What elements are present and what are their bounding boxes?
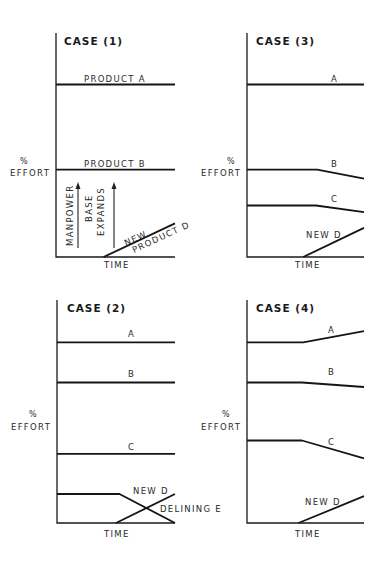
case-4-label-c: C bbox=[328, 437, 335, 447]
case-1-y-label-symbol: % bbox=[20, 157, 29, 166]
panel-case-1: CASE (1) % EFFORT TIME PRODUCT A PRODUCT… bbox=[10, 33, 192, 270]
case-1-label-product-a: PRODUCT A bbox=[84, 74, 146, 84]
case-3-axes bbox=[247, 33, 364, 257]
case-2-x-label: TIME bbox=[103, 529, 130, 539]
effort-diagram: CASE (1) % EFFORT TIME PRODUCT A PRODUCT… bbox=[0, 0, 385, 563]
case-1-base-expands-arrowhead-icon bbox=[112, 182, 117, 189]
case-1-expands-label: EXPANDS bbox=[96, 187, 106, 236]
case-2-label-a: A bbox=[128, 329, 135, 339]
case-1-y-label: EFFORT bbox=[10, 168, 50, 178]
case-4-x-label: TIME bbox=[294, 529, 321, 539]
case-1-manpower-label: MANPOWER bbox=[65, 185, 75, 246]
case-3-label-a: A bbox=[331, 74, 338, 84]
case-4-axes bbox=[247, 300, 364, 523]
case-2-label-c: C bbox=[128, 442, 135, 452]
case-4-series-a bbox=[247, 331, 364, 342]
case-3-series-c bbox=[247, 206, 364, 213]
case-3-label-new-d: NEW D bbox=[306, 230, 342, 240]
case-2-label-b: B bbox=[128, 369, 135, 379]
case-4-label-b: B bbox=[328, 367, 335, 377]
case-4-series-b bbox=[247, 383, 364, 388]
case-1-manpower-arrowhead-icon bbox=[76, 182, 81, 189]
panel-case-4: CASE (4) % EFFORT TIME A B C NEW D bbox=[201, 300, 364, 539]
case-2-series-delining-e bbox=[57, 494, 175, 523]
case-3-y-label-symbol: % bbox=[227, 157, 236, 166]
case-4-label-new-d: NEW D bbox=[305, 497, 341, 507]
case-4-series-c bbox=[247, 441, 364, 459]
case-1-base-label: BASE bbox=[84, 194, 94, 222]
case-4-y-label-symbol: % bbox=[222, 410, 231, 419]
case-3-label-b: B bbox=[331, 159, 338, 169]
case-3-series-b bbox=[247, 170, 364, 179]
case-1-label-product-b: PRODUCT B bbox=[84, 159, 146, 169]
case-2-y-label: EFFORT bbox=[11, 422, 51, 432]
case-3-label-c: C bbox=[331, 194, 338, 204]
case-3-y-label: EFFORT bbox=[201, 168, 241, 178]
panel-case-3: CASE (3) % EFFORT TIME A B C NEW D bbox=[201, 33, 364, 270]
case-3-x-label: TIME bbox=[294, 260, 321, 270]
case-2-label-delining-e: DELINING E bbox=[160, 504, 222, 514]
case-4-y-label: EFFORT bbox=[201, 422, 241, 432]
case-2-y-label-symbol: % bbox=[29, 410, 38, 419]
case-1-x-label: TIME bbox=[103, 260, 130, 270]
panel-case-2: CASE (2) % EFFORT TIME A B C NEW D DELIN… bbox=[11, 300, 222, 539]
case-3-title: CASE (3) bbox=[256, 35, 315, 47]
case-2-label-new-d: NEW D bbox=[133, 486, 169, 496]
case-2-title: CASE (2) bbox=[67, 302, 126, 314]
case-4-title: CASE (4) bbox=[256, 302, 315, 314]
case-4-label-a: A bbox=[328, 325, 335, 335]
case-4-lines bbox=[247, 331, 364, 523]
case-1-title: CASE (1) bbox=[64, 35, 123, 47]
